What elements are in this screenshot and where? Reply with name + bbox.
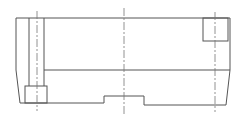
right-recess <box>203 18 228 41</box>
left-counterbore <box>25 86 47 103</box>
technical-drawing <box>0 0 240 126</box>
outer-contour <box>16 18 230 105</box>
